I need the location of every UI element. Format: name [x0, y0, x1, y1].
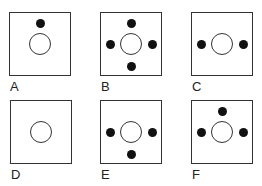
- option-panel-f: [191, 100, 253, 164]
- center-circle-icon: [211, 121, 233, 143]
- dot-top-icon: [218, 107, 227, 116]
- dot-right-icon: [148, 40, 157, 49]
- dot-top-icon: [36, 19, 45, 28]
- option-panel-e: [100, 100, 162, 164]
- option-label: A: [10, 80, 19, 93]
- option-label: E: [101, 168, 110, 181]
- option-label: D: [11, 168, 20, 181]
- option-label: C: [192, 80, 201, 93]
- center-circle-icon: [120, 121, 142, 143]
- dot-right-icon: [148, 128, 157, 137]
- option-panel-c: [191, 12, 253, 76]
- dot-top-icon: [127, 19, 136, 28]
- center-circle-icon: [29, 33, 51, 55]
- option-panel-b: [100, 12, 162, 76]
- dot-bottom-icon: [127, 62, 136, 71]
- center-circle-icon: [30, 121, 52, 143]
- option-panel-d: [10, 100, 72, 164]
- dot-right-icon: [239, 40, 248, 49]
- option-panel-a: [9, 12, 71, 76]
- dot-left-icon: [197, 128, 206, 137]
- center-circle-icon: [211, 33, 233, 55]
- option-label: F: [192, 168, 200, 181]
- dot-left-icon: [197, 40, 206, 49]
- option-label: B: [101, 80, 110, 93]
- dot-left-icon: [106, 128, 115, 137]
- dot-right-icon: [239, 128, 248, 137]
- center-circle-icon: [120, 33, 142, 55]
- dot-bottom-icon: [127, 150, 136, 159]
- dot-left-icon: [106, 40, 115, 49]
